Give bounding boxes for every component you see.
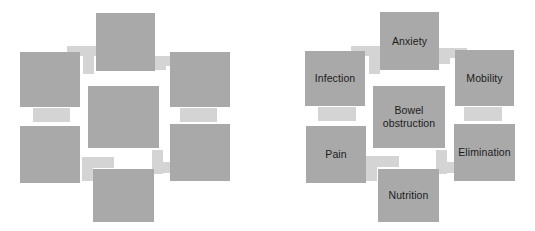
connector-mobility-elimination-labeled <box>464 107 502 121</box>
blank-template-diagram <box>0 0 267 231</box>
node-center[interactable]: Bowel obstruction <box>373 86 445 148</box>
node-nutrition-label: Nutrition <box>386 189 432 202</box>
connector-mobility-stub-labeled <box>439 48 450 64</box>
node-infection-blank[interactable] <box>20 52 80 107</box>
node-anxiety-label: Anxiety <box>389 35 430 48</box>
completed-diagram: Anxiety Infection Mobility Bowel obstruc… <box>268 0 535 231</box>
node-nutrition[interactable]: Nutrition <box>378 169 439 222</box>
node-nutrition-blank[interactable] <box>93 169 154 222</box>
node-elimination-label: Elimination <box>455 146 513 159</box>
node-mobility-label: Mobility <box>463 72 505 85</box>
connector-mobility-elimination <box>180 108 217 122</box>
connector-anxiety-center-left <box>83 46 94 74</box>
node-infection[interactable]: Infection <box>305 51 365 106</box>
node-pain[interactable]: Pain <box>306 126 366 183</box>
node-elimination-blank[interactable] <box>170 124 230 181</box>
node-mobility-blank[interactable] <box>170 52 230 107</box>
node-infection-label: Infection <box>312 72 359 85</box>
node-center-blank[interactable] <box>88 86 159 148</box>
node-pain-label: Pain <box>322 148 349 161</box>
figure-canvas: Anxiety Infection Mobility Bowel obstruc… <box>0 0 535 231</box>
node-mobility[interactable]: Mobility <box>455 50 514 106</box>
connector-infection-pain <box>33 108 70 122</box>
connector-pain-nutrition-stub-labeled <box>366 156 377 181</box>
node-anxiety[interactable]: Anxiety <box>380 12 439 70</box>
connector-infection-pain-labeled <box>318 107 356 121</box>
node-anxiety-blank[interactable] <box>96 13 155 71</box>
node-center-label: Bowel obstruction <box>373 104 445 130</box>
connector-anxiety-center-left-labeled <box>369 46 380 74</box>
connector-mobility-stub <box>155 56 166 70</box>
node-elimination[interactable]: Elimination <box>454 124 515 181</box>
connector-pain-nutrition-stub <box>82 157 93 181</box>
node-pain-blank[interactable] <box>20 126 80 183</box>
